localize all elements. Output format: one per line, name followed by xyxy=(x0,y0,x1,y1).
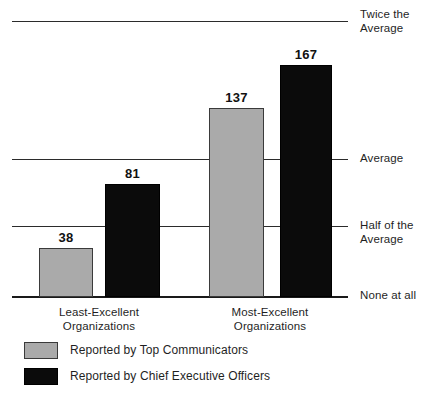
category-label-least-excellent-organizations: Least-Excellent Organizations xyxy=(34,305,164,333)
legend-swatch-chief-executive-officers xyxy=(24,368,58,385)
gridline-twice-the-average xyxy=(12,21,348,22)
legend-label-chief-executive-officers: Reported by Chief Executive Officers xyxy=(70,368,270,385)
bar-chart: 38 81 137 167 Twice the Average Average … xyxy=(0,0,424,396)
legend-label-top-communicators: Reported by Top Communicators xyxy=(70,342,248,359)
axis-label-average: Average xyxy=(360,152,403,166)
chart-legend: Reported by Top Communicators Reported b… xyxy=(0,338,424,396)
axis-label-twice-the-average: Twice the Average xyxy=(360,8,409,35)
axis-label-none-at-all: None at all xyxy=(360,289,416,303)
legend-item-chief-executive-officers: Reported by Chief Executive Officers xyxy=(0,368,424,392)
bar-value-167: 167 xyxy=(280,47,332,62)
bar-most-excellent-chief-executive-officers xyxy=(280,65,332,297)
category-label-most-excellent-organizations: Most-Excellent Organizations xyxy=(205,305,335,333)
bar-least-excellent-top-communicators xyxy=(39,248,93,297)
bar-value-81: 81 xyxy=(105,166,160,181)
legend-item-top-communicators: Reported by Top Communicators xyxy=(0,342,424,366)
bar-value-137: 137 xyxy=(209,90,264,105)
bar-least-excellent-chief-executive-officers xyxy=(105,184,160,297)
axis-label-half-of-the-average: Half of the Average xyxy=(360,219,414,246)
legend-swatch-top-communicators xyxy=(24,342,58,359)
bar-value-38: 38 xyxy=(39,230,93,245)
bar-most-excellent-top-communicators xyxy=(209,108,264,297)
plot-area: 38 81 137 167 Twice the Average Average … xyxy=(0,0,424,300)
